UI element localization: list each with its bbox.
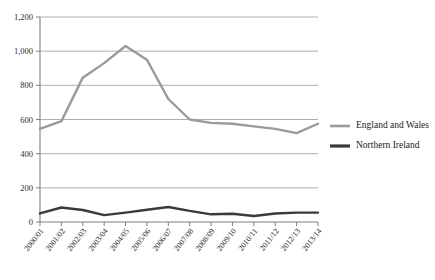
legend-label: England and Wales	[356, 120, 429, 130]
gridlines	[40, 17, 318, 188]
x-tick-label: 2012/13	[279, 227, 302, 253]
x-axis-ticks	[40, 222, 318, 226]
line-chart: 02004006008001,0001,200 2000/012001/0220…	[0, 0, 435, 280]
y-tick-label: 400	[20, 149, 33, 159]
y-tick-label: 1,000	[14, 46, 33, 56]
series-line	[40, 46, 318, 133]
x-axis-labels: 2000/012001/022002/032003/042004/052005/…	[22, 227, 323, 253]
y-tick-label: 600	[20, 115, 33, 125]
y-tick-label: 1,200	[14, 12, 33, 22]
y-tick-label: 200	[20, 183, 33, 193]
series-line	[40, 207, 318, 216]
y-tick-label: 0	[29, 217, 33, 227]
x-tick-label: 2002/03	[65, 227, 88, 253]
x-tick-label: 2006/07	[151, 227, 174, 253]
y-axis-labels: 02004006008001,0001,200	[14, 12, 33, 227]
x-tick-label: 2011/12	[258, 227, 281, 253]
x-tick-label: 2007/08	[172, 227, 195, 253]
x-tick-label: 2004/05	[108, 227, 131, 253]
x-tick-label: 2005/06	[129, 227, 152, 253]
legend-label: Northern Ireland	[356, 140, 420, 150]
x-tick-label: 2009/10	[215, 227, 238, 253]
x-tick-label: 2003/04	[86, 227, 109, 253]
x-tick-label: 2010/11	[236, 227, 259, 253]
chart-canvas: 02004006008001,0001,200 2000/012001/0220…	[0, 0, 435, 280]
chart-legend: England and WalesNorthern Ireland	[330, 120, 429, 150]
x-tick-label: 2008/09	[193, 227, 216, 253]
y-tick-label: 800	[20, 80, 33, 90]
data-series-group	[40, 46, 318, 216]
x-tick-label: 2013/14	[300, 227, 323, 253]
x-tick-label: 2001/02	[44, 227, 67, 253]
x-tick-label: 2000/01	[22, 227, 45, 253]
y-axis-ticks	[36, 17, 40, 222]
